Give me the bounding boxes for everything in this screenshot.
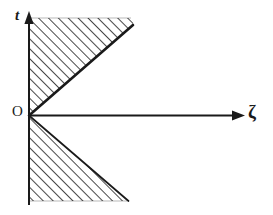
origin-label: O bbox=[12, 104, 23, 119]
diagram-svg bbox=[0, 0, 273, 215]
t-axis-label: t bbox=[15, 8, 19, 23]
zeta-axis-label: ζ bbox=[248, 102, 256, 121]
zeta-axis-arrowhead-icon bbox=[232, 111, 245, 121]
figure-canvas: t O ζ bbox=[0, 0, 273, 215]
t-axis-arrowhead-icon bbox=[24, 11, 33, 24]
